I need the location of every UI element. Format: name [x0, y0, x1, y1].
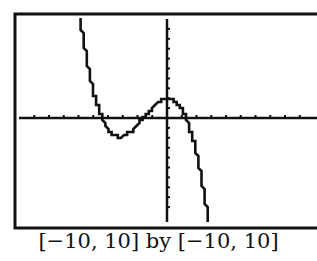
window-caption: [−10, 10] by [−10, 10] — [0, 229, 317, 253]
axes — [19, 19, 317, 222]
graphing-calculator-plot — [0, 0, 317, 261]
function-curve — [81, 18, 208, 222]
